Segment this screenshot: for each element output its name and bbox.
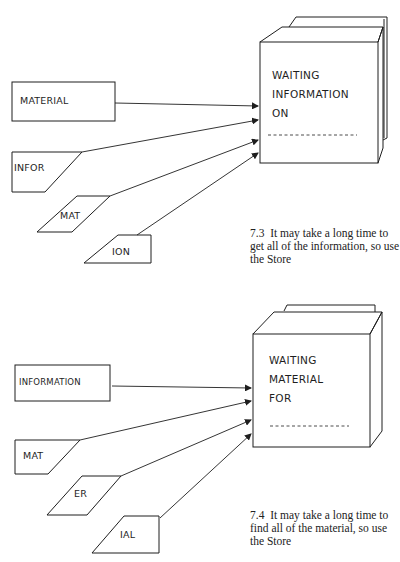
arrow-3 <box>121 420 251 476</box>
arrow-2 <box>80 401 251 440</box>
caption-7-3: 7.3 It may take a long time to get all o… <box>250 227 400 266</box>
fragment-label-1: MAT <box>23 450 43 461</box>
source-box-label: MATERIAL <box>20 95 69 106</box>
caption-7-4: 7.4 It may take a long time to find all … <box>250 509 400 548</box>
store-label: WAITING MATERIAL FOR <box>269 351 323 408</box>
fragment-label-1: INFOR <box>14 162 44 173</box>
store-line-2: MATERIAL <box>269 370 323 389</box>
fragment-label-2: ER <box>74 488 87 499</box>
caption-number: 7.4 <box>250 509 264 521</box>
arrow-2 <box>82 120 258 152</box>
figure-7-4: WAITING MATERIAL FOR INFORMATION MAT ER … <box>0 281 400 562</box>
caption-text: It may take a long time to get all of th… <box>250 227 399 265</box>
fragment-label-3: IAL <box>120 529 135 540</box>
caption-number: 7.3 <box>250 227 264 239</box>
store-line-3: ON <box>272 104 349 123</box>
arrow-1 <box>115 103 258 106</box>
store-line-1: WAITING <box>272 66 349 85</box>
store-line-3: FOR <box>269 389 323 408</box>
fragment-label-2: MAT <box>60 210 80 221</box>
store-line-1: WAITING <box>269 351 323 370</box>
store-line-2: INFORMATION <box>272 85 349 104</box>
source-box-label: INFORMATION <box>19 377 81 387</box>
arrow-4 <box>137 153 258 235</box>
arrow-1 <box>112 386 251 388</box>
arrow-4 <box>160 434 251 518</box>
store-label: WAITING INFORMATION ON <box>272 66 349 123</box>
figure-7-3: WAITING INFORMATION ON MATERIAL INFOR MA… <box>0 0 400 281</box>
fragment-label-3: ION <box>112 246 130 257</box>
caption-text: It may take a long time to find all of t… <box>250 509 388 547</box>
